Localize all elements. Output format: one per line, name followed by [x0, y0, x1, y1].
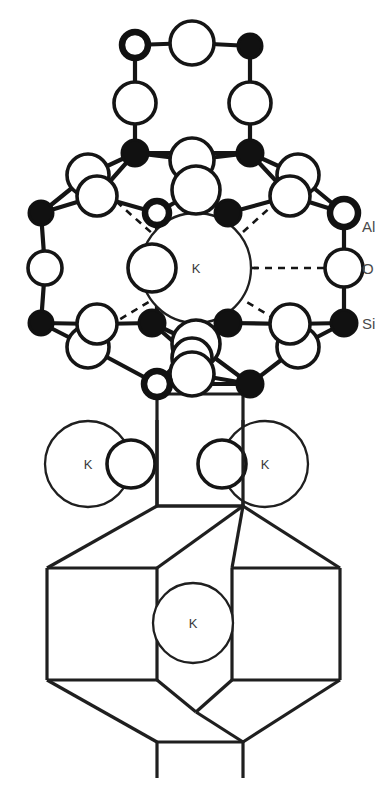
cage-upper-right-diag	[243, 506, 340, 568]
cage-upper-left-diag	[47, 506, 157, 568]
cage-inner-diag-upright	[232, 506, 243, 568]
oxygen-top-center	[170, 21, 214, 65]
legend-group: Al O Si	[362, 218, 375, 332]
cage-inner-diag-downleft	[157, 680, 196, 712]
cation-k-right-mid-label: K	[261, 457, 270, 472]
mid-cations-group: K K	[45, 420, 308, 507]
cation-k-center-label: K	[192, 261, 201, 276]
legend-label-al: Al	[362, 218, 375, 235]
oxygen-top-right	[229, 82, 271, 124]
structure-diagram: K K K	[0, 0, 386, 791]
legend-label-o: O	[362, 260, 374, 277]
aluminium-right-legend-node	[330, 199, 358, 227]
oxygen-lower-right-back	[270, 304, 310, 344]
cation-k-left-mid-label: K	[84, 457, 93, 472]
legend-label-si: Si	[362, 315, 375, 332]
silicon-upper-left	[122, 140, 148, 166]
aluminium-top-left	[122, 32, 148, 58]
structure-canvas: K K K	[0, 0, 386, 791]
oxygen-upper-right-front	[270, 176, 310, 216]
silicon-top-right	[238, 34, 262, 58]
silicon-inner-lower-right	[215, 310, 241, 336]
silicon-upper-right	[237, 140, 263, 166]
silicon-left-upper	[29, 201, 53, 225]
oxygen-far-right	[325, 249, 363, 287]
oxygen-upper-center-front	[172, 166, 220, 214]
cage-inner-diag-tobottom	[196, 712, 243, 742]
oxygen-bottom-center	[170, 352, 214, 396]
silicon-left-lower	[29, 311, 53, 335]
cage-lower-left-diag	[47, 680, 157, 742]
oxygen-far-left	[28, 251, 62, 285]
cage-lower-right-diag	[243, 680, 340, 742]
oxygen-inner-left	[128, 244, 176, 292]
oxygen-mid-right	[198, 440, 246, 488]
silicon-inner-upper-right	[215, 200, 241, 226]
silicon-right-legend-node	[331, 310, 357, 336]
cation-k-cage-bottom-label: K	[189, 616, 198, 631]
aluminium-bottom-left	[144, 371, 170, 397]
aluminium-inner-upper-left	[145, 201, 169, 225]
silicon-bottom-right	[237, 371, 263, 397]
silicon-inner-lower-left	[139, 310, 165, 336]
top-ring-group	[114, 21, 271, 153]
oxygen-lower-left-back	[77, 304, 117, 344]
oxygen-upper-left-front	[77, 176, 117, 216]
oxygen-top-left	[114, 82, 156, 124]
lower-cage-group: K	[47, 506, 340, 778]
cage-inner-diag-upleft	[157, 506, 243, 568]
cage-inner-diag-downright	[196, 680, 232, 712]
oxygen-mid-left	[107, 440, 155, 488]
